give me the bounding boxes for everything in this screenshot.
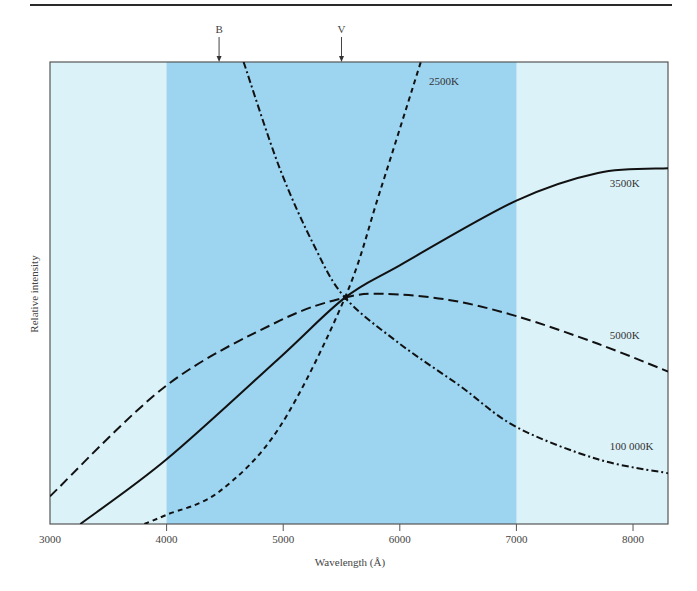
visible-band bbox=[167, 62, 517, 524]
filter-markers: BV bbox=[215, 23, 345, 62]
curve-label-2500k: 2500K bbox=[429, 75, 459, 87]
y-axis-label: Relative intensity bbox=[28, 255, 40, 333]
intersection-point bbox=[343, 295, 348, 300]
x-axis-label: Wavelength (Å) bbox=[315, 556, 386, 569]
filter-label-v: V bbox=[338, 23, 346, 35]
x-tick-label: 7000 bbox=[505, 533, 528, 545]
curve-label-5000k: 5000K bbox=[610, 329, 640, 341]
filter-label-b: B bbox=[215, 23, 222, 35]
shaded-bands bbox=[50, 62, 668, 524]
curve-label-100000k: 100 000K bbox=[610, 440, 654, 452]
x-axis-ticks: 300040005000600070008000 bbox=[39, 524, 645, 545]
blackbody-chart: 300040005000600070008000 BV 2500K3500K50… bbox=[0, 0, 697, 591]
x-tick-label: 3000 bbox=[39, 533, 62, 545]
x-tick-label: 4000 bbox=[156, 533, 179, 545]
curve-label-3500k: 3500K bbox=[610, 177, 640, 189]
x-tick-label: 5000 bbox=[272, 533, 295, 545]
arrowhead-icon bbox=[339, 56, 344, 62]
x-tick-label: 6000 bbox=[389, 533, 412, 545]
x-tick-label: 8000 bbox=[622, 533, 645, 545]
arrowhead-icon bbox=[217, 56, 222, 62]
